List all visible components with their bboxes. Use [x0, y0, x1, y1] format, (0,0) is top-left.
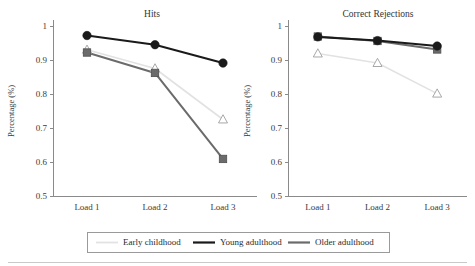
data-point-circle [83, 31, 91, 39]
y-tick-label: 1 [278, 21, 283, 31]
panel-title: Correct Rejections [343, 9, 414, 19]
data-point-circle [314, 33, 322, 41]
figure-root: Hits0.50.60.70.80.91Load 1Load 2Load 3Pe… [0, 0, 475, 266]
legend-item-label: Early childhood [123, 237, 181, 247]
data-point-square [151, 69, 158, 76]
y-tick-label: 0.7 [36, 123, 48, 133]
x-tick-label: Load 1 [74, 202, 99, 212]
x-tick-label: Load 2 [142, 202, 167, 212]
y-tick-label: 0.6 [36, 157, 48, 167]
figure-background [0, 0, 475, 266]
y-tick-label: 0.5 [36, 191, 48, 201]
data-point-circle [433, 42, 441, 50]
data-point-square [219, 155, 226, 162]
y-tick-label: 0.9 [36, 55, 48, 65]
y-tick-label: 1 [43, 21, 48, 31]
y-tick-label: 0.7 [271, 123, 283, 133]
data-point-circle [219, 59, 227, 67]
legend-item-label: Young adulthood [220, 237, 282, 247]
y-axis-title: Percentage (%) [6, 85, 16, 137]
x-tick-label: Load 3 [210, 202, 236, 212]
panel-title: Hits [144, 9, 160, 19]
y-tick-label: 0.6 [271, 157, 283, 167]
x-tick-label: Load 1 [305, 202, 330, 212]
data-point-circle [373, 36, 381, 44]
y-tick-label: 0.8 [271, 89, 283, 99]
y-tick-label: 0.8 [36, 89, 48, 99]
x-tick-label: Load 2 [365, 202, 390, 212]
data-point-circle [151, 41, 159, 49]
data-point-square [83, 49, 90, 56]
y-tick-label: 0.5 [271, 191, 283, 201]
y-tick-label: 0.9 [271, 55, 283, 65]
legend-item-label: Older adulthood [315, 237, 374, 247]
x-tick-label: Load 3 [425, 202, 451, 212]
chart-legend: Early childhoodYoung adulthoodOlder adul… [88, 233, 390, 253]
y-axis-title: Percentage (%) [242, 85, 252, 137]
